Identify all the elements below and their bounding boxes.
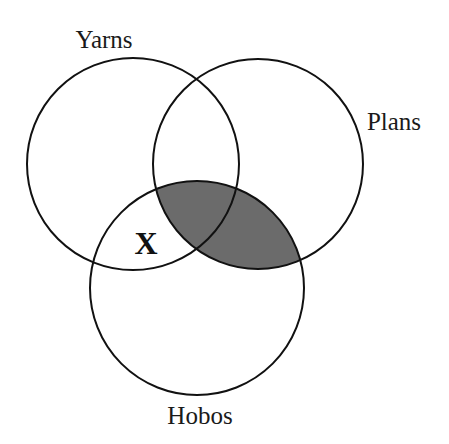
shaded-region-plans-hobos [90, 181, 304, 395]
label-hobos: Hobos [167, 402, 232, 429]
label-plans: Plans [367, 108, 421, 135]
venn-diagram: Yarns Plans Hobos X [0, 0, 449, 444]
region-marker-x: X [134, 225, 157, 261]
venn-svg: Yarns Plans Hobos X [0, 0, 449, 444]
label-yarns: Yarns [75, 26, 132, 53]
